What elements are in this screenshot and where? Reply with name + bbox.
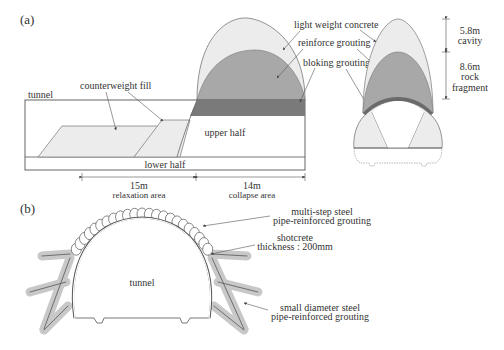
small-diameter-pipes-left bbox=[30, 254, 70, 330]
cavity-label: cavity bbox=[458, 35, 482, 46]
small-diameter-pipes-right bbox=[212, 254, 258, 330]
small-pipe-arrow bbox=[244, 303, 268, 310]
shotcrete-label-2: thickness : 200mm bbox=[257, 241, 333, 252]
tunnel-label-b: tunnel bbox=[130, 277, 155, 288]
small-pipe-label-2: pipe-reinforced grouting bbox=[271, 311, 369, 322]
pipe-circle bbox=[203, 243, 213, 255]
relaxation-area-label: relaxation area bbox=[112, 190, 165, 200]
fragment-label: fragment bbox=[452, 82, 488, 93]
bloking-grouting-band bbox=[190, 100, 305, 116]
panel-b-label: (b) bbox=[20, 201, 35, 216]
bloking-grouting-label: bloking grouting bbox=[303, 57, 370, 68]
multistep-arrow bbox=[203, 216, 270, 226]
upper-half-label: upper half bbox=[205, 127, 246, 138]
panel-a: (a) tunnel counterweight fill upper half… bbox=[20, 12, 488, 200]
reinforce-grouting-label: reinforce grouting bbox=[298, 37, 370, 48]
tunnel-label: tunnel bbox=[28, 89, 53, 100]
panel-a-label: (a) bbox=[20, 12, 34, 27]
lower-half-label: lower half bbox=[145, 159, 186, 170]
light-weight-concrete-label: light weight concrete bbox=[294, 19, 379, 30]
collapse-area-label: collapse area bbox=[229, 190, 276, 200]
rock-label: rock bbox=[461, 71, 479, 82]
panel-b: (b) bbox=[20, 201, 371, 330]
counterweight-fill-label: counterweight fill bbox=[80, 80, 152, 91]
multistep-label-2: pipe-reinforced grouting bbox=[273, 215, 371, 226]
tunnel-diagram: (a) tunnel counterweight fill upper half… bbox=[0, 0, 504, 350]
